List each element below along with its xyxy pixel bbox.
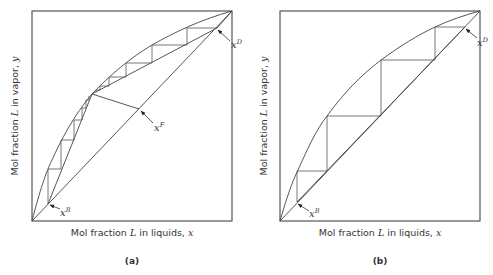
diagonal-line-a [32,11,232,221]
rectifying-line-a [92,28,217,94]
stripping-line-a [48,94,92,204]
xd-label-b: xD [477,36,489,48]
q-line-a [92,94,139,109]
xb-label-a: xB [60,206,71,218]
y-axis-label-b: Mol fraction L in vapor, y [258,56,269,175]
xb-arrow-a [50,205,60,209]
panel-b: xB xD Mol fraction L in liquids, x Mol f… [258,11,489,266]
xf-arrow-a [141,111,153,123]
xf-label-a: xF [154,121,165,133]
panel-caption-b: (b) [373,256,388,266]
xb-arrow-b [298,204,309,211]
y-axis-label-a: Mol fraction L in vapor, y [9,56,20,175]
x-axis-label-a: Mol fraction L in liquids, x [71,227,194,238]
xb-label-b: xB [309,207,320,219]
xd-label-a: xD [231,38,243,50]
x-axis-label-b: Mol fraction L in liquids, x [319,227,442,238]
panel-a: xB xF xD Mol fraction L in liquids, x Mo… [9,11,243,266]
xd-arrow-a [218,30,230,41]
panel-caption-a: (a) [125,256,139,266]
mccabe-thiele-figure: xB xF xD Mol fraction L in liquids, x Mo… [0,0,493,275]
xd-arrow-b [466,29,477,38]
